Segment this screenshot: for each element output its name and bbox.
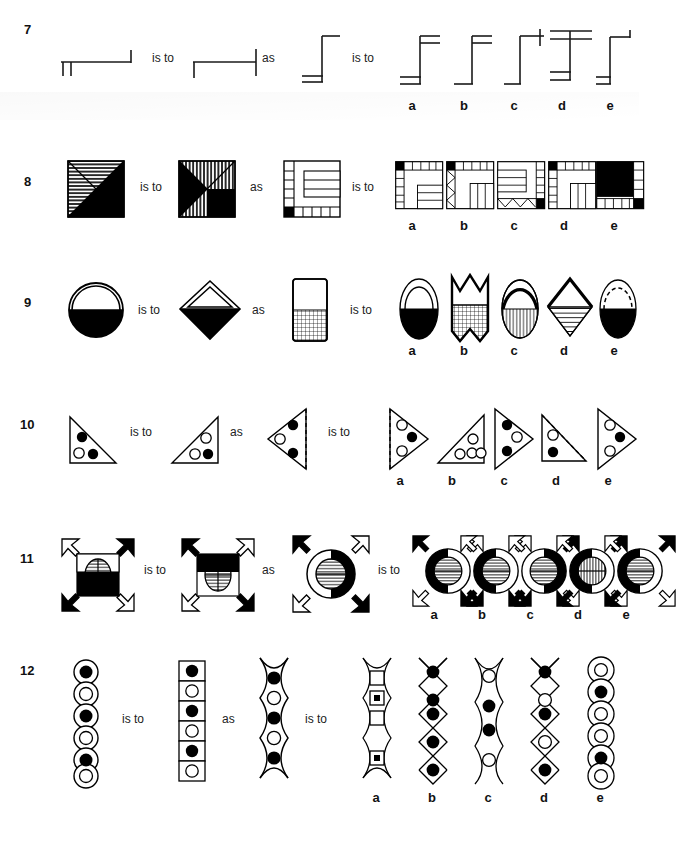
q11-option-b-label[interactable]: b — [460, 607, 504, 622]
question-row-12: 12 is to — [0, 650, 639, 851]
q8-option-a-label[interactable]: a — [390, 218, 434, 233]
q12-option-b-label[interactable]: b — [410, 790, 454, 805]
q11-relation-1: is to — [144, 563, 166, 577]
q11-option-c-label[interactable]: c — [508, 607, 552, 622]
question-number-8: 8 — [24, 174, 31, 189]
q8-option-d-figure[interactable] — [547, 160, 599, 212]
q12-stimulus-2 — [176, 658, 208, 782]
q10-stimulus-1 — [64, 413, 120, 469]
q7-relation-3: is to — [352, 51, 374, 65]
q7-option-e-label[interactable]: e — [588, 98, 632, 113]
q12-relation-2: as — [222, 712, 235, 726]
q8-option-c-figure[interactable] — [496, 160, 548, 212]
q10-option-c-figure[interactable] — [487, 403, 539, 475]
q7-option-b-label[interactable]: b — [442, 98, 486, 113]
q8-option-d-label[interactable]: d — [542, 218, 586, 233]
q11-relation-3: is to — [378, 563, 400, 577]
q7-stimulus-1 — [55, 40, 145, 80]
q12-option-e-figure[interactable] — [582, 654, 620, 786]
q10-stimulus-2 — [168, 413, 224, 469]
q7-option-d-figure[interactable] — [548, 22, 598, 94]
q10-relation-1: is to — [130, 425, 152, 439]
q8-stimulus-1 — [66, 159, 128, 221]
q8-option-a-figure[interactable] — [394, 160, 446, 212]
q9-option-e-figure[interactable] — [596, 275, 640, 343]
q8-option-b-figure[interactable] — [445, 160, 497, 212]
q11-stimulus-2 — [180, 537, 256, 613]
q7-relation-2: as — [262, 51, 275, 65]
q7-option-c-figure[interactable] — [500, 22, 552, 94]
q10-stimulus-3 — [262, 403, 314, 475]
q9-option-b-figure[interactable] — [446, 271, 494, 343]
q7-option-e-figure[interactable] — [596, 26, 640, 94]
q9-option-a-label[interactable]: a — [390, 343, 434, 358]
q8-option-e-figure[interactable] — [595, 160, 647, 212]
q10-option-e-label[interactable]: e — [586, 473, 630, 488]
q12-option-a-label[interactable]: a — [354, 790, 398, 805]
q8-relation-2: as — [250, 180, 263, 194]
q10-option-b-label[interactable]: b — [430, 473, 474, 488]
q9-option-b-label[interactable]: b — [442, 343, 486, 358]
q12-relation-3: is to — [305, 712, 327, 726]
q8-option-b-label[interactable]: b — [442, 218, 486, 233]
q7-relation-1: is to — [152, 51, 174, 65]
q12-option-b-figure[interactable] — [414, 654, 452, 786]
q10-option-c-label[interactable]: c — [482, 473, 526, 488]
question-number-7: 7 — [24, 22, 31, 37]
q12-stimulus-3 — [255, 654, 293, 786]
q7-option-d-label[interactable]: d — [540, 98, 584, 113]
q11-option-e-label[interactable]: e — [604, 607, 648, 622]
q12-option-d-figure[interactable] — [526, 654, 564, 786]
question-row-7: 7 is to as — [0, 0, 639, 140]
q7-option-a-figure[interactable] — [398, 28, 446, 94]
q12-option-a-figure[interactable] — [358, 654, 396, 786]
q12-stimulus-1 — [68, 658, 104, 782]
q11-option-a-label[interactable]: a — [412, 607, 456, 622]
q10-option-a-figure[interactable] — [382, 403, 434, 475]
question-number-12: 12 — [20, 663, 34, 678]
q10-relation-3: is to — [328, 425, 350, 439]
q9-option-e-label[interactable]: e — [592, 343, 636, 358]
q11-stimulus-3 — [292, 535, 370, 613]
q8-relation-1: is to — [140, 180, 162, 194]
q8-stimulus-2 — [177, 159, 239, 221]
q10-option-e-figure[interactable] — [590, 403, 642, 475]
q9-relation-2: as — [252, 303, 265, 317]
q9-relation-1: is to — [138, 303, 160, 317]
q9-option-c-label[interactable]: c — [492, 343, 536, 358]
q12-option-c-figure[interactable] — [470, 654, 508, 786]
q12-option-c-label[interactable]: c — [466, 790, 510, 805]
q11-option-d-label[interactable]: d — [556, 607, 600, 622]
question-row-10: 10 is to as — [0, 385, 639, 515]
question-number-9: 9 — [24, 295, 31, 310]
q12-option-d-label[interactable]: d — [522, 790, 566, 805]
question-row-9: 9 is to as — [0, 265, 639, 385]
q7-option-b-figure[interactable] — [450, 28, 498, 94]
q9-option-d-figure[interactable] — [544, 274, 596, 342]
q8-option-c-label[interactable]: c — [492, 218, 536, 233]
q9-option-a-figure[interactable] — [397, 275, 441, 343]
q10-option-d-label[interactable]: d — [534, 473, 578, 488]
q8-stimulus-3 — [282, 159, 344, 221]
q9-stimulus-2 — [176, 277, 244, 343]
q10-option-a-label[interactable]: a — [378, 473, 422, 488]
q11-stimulus-1 — [60, 537, 136, 613]
q11-option-e-figure[interactable] — [604, 535, 676, 607]
q10-option-b-figure[interactable] — [434, 411, 494, 471]
q10-option-d-figure[interactable] — [536, 411, 592, 469]
q8-option-e-label[interactable]: e — [592, 218, 636, 233]
question-row-8: 8 is to — [0, 140, 639, 265]
question-number-11: 11 — [20, 551, 34, 566]
q11-relation-2: as — [262, 563, 275, 577]
question-row-11: 11 — [0, 515, 639, 650]
q9-stimulus-1 — [64, 279, 128, 341]
q8-relation-3: is to — [352, 180, 374, 194]
q12-option-e-label[interactable]: e — [578, 790, 622, 805]
q9-option-d-label[interactable]: d — [542, 343, 586, 358]
q7-option-c-label[interactable]: c — [492, 98, 536, 113]
q9-relation-3: is to — [350, 303, 372, 317]
q7-option-a-label[interactable]: a — [390, 98, 434, 113]
q9-option-c-figure[interactable] — [498, 275, 542, 343]
q7-stimulus-3 — [292, 30, 342, 92]
